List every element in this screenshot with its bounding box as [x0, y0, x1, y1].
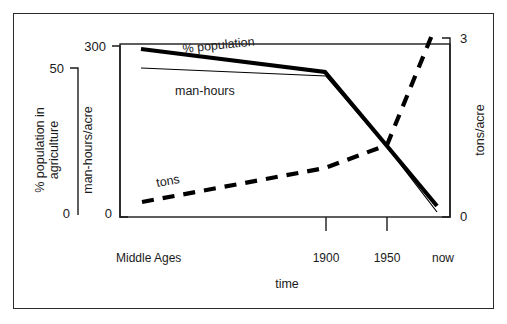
series-label-population: % population	[182, 35, 255, 56]
y-axis-title-population-line2: agriculture	[47, 121, 61, 179]
chart-canvas: 50 0 % population in agriculture 300 0 m…	[0, 0, 507, 324]
x-axis-title: time	[275, 277, 299, 291]
y-axis-title-man-hours-per-acre: man-hours/acre	[81, 106, 95, 194]
y-tick-label-population-50: 50	[50, 61, 64, 76]
axis-bracket-tons	[442, 38, 450, 217]
x-axis-ticks	[326, 217, 387, 231]
axis-bracket-population	[70, 68, 78, 215]
y-tick-label-manhours-0: 0	[105, 206, 112, 221]
x-tick-label-1900: 1900	[313, 251, 340, 265]
y-axis-title-tons-per-acre: tons/acre	[473, 104, 487, 155]
y-tick-label-tons-0: 0	[460, 209, 467, 224]
x-tick-label-1950: 1950	[374, 251, 401, 265]
series-line-population	[141, 49, 437, 206]
series-label-man-hours: man-hours	[175, 84, 235, 98]
series-label-tons: tons	[155, 172, 181, 190]
x-tick-label-middle-ages: Middle Ages	[116, 251, 181, 265]
y-tick-label-population-0: 0	[63, 206, 70, 221]
y-tick-label-manhours-300: 300	[84, 39, 106, 54]
series-line-tons	[142, 35, 432, 202]
figure-root: 50 0 % population in agriculture 300 0 m…	[0, 0, 507, 324]
y-axis-title-population-line1: % population in	[33, 107, 47, 193]
y-tick-label-tons-3: 3	[460, 31, 467, 46]
x-tick-label-now: now	[432, 251, 454, 265]
plot-frame-rect	[120, 44, 450, 217]
